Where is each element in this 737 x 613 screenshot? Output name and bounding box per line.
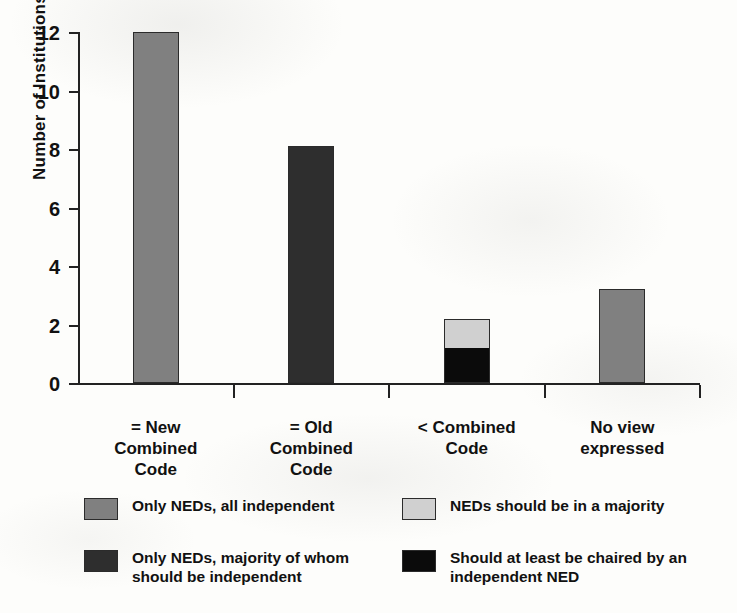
y-axis-tick: 0 [69, 383, 80, 385]
y-axis-tick: 4 [69, 266, 80, 268]
x-axis-category-label: No viewexpressed [545, 417, 701, 459]
bar-segment [134, 33, 178, 382]
category-label-line: Code [234, 459, 390, 480]
legend-item-label: Only NEDs, majority of whom should be in… [132, 549, 384, 587]
category-label-line: = New [78, 417, 234, 438]
category-label-line: Combined [78, 438, 234, 459]
chart-legend: Only NEDs, all independentNEDs should be… [84, 497, 724, 597]
legend-swatch-icon [84, 550, 118, 572]
legend-item-label: Should at least be chaired by an indepen… [450, 549, 722, 587]
legend-item[interactable]: Should at least be chaired by an indepen… [402, 549, 722, 597]
category-label-line: Combined [234, 438, 390, 459]
y-axis-tick-label: 2 [49, 314, 60, 337]
legend-item-label: NEDs should be in a majority [450, 497, 664, 516]
x-axis-category-label: < CombinedCode [389, 417, 545, 459]
legend-swatch-icon [402, 550, 436, 572]
y-axis-tick: 8 [69, 149, 80, 151]
y-axis-tick-label: 12 [38, 22, 60, 45]
y-axis-tick-label: 10 [38, 80, 60, 103]
bar-chart: Number of Institutions 121086420 = NewCo… [0, 0, 737, 613]
legend-swatch-icon [402, 498, 436, 520]
legend-item[interactable]: Only NEDs, all independent [84, 497, 384, 545]
y-axis-tick-label: 4 [49, 256, 60, 279]
y-axis-tick-label: 0 [49, 373, 60, 396]
bar-segment [445, 320, 489, 348]
legend-item-label: Only NEDs, all independent [132, 497, 334, 516]
legend-item[interactable]: Only NEDs, majority of whom should be in… [84, 549, 384, 597]
category-label-line: Code [389, 438, 545, 459]
bar [288, 146, 334, 383]
plot-area: 121086420 [78, 26, 700, 385]
x-axis-category-label: = NewCombinedCode [78, 417, 234, 480]
category-label-line: expressed [545, 438, 701, 459]
bar [599, 289, 645, 383]
x-axis-separator [699, 385, 701, 398]
category-label-line: = Old [234, 417, 390, 438]
category-label-line: Code [78, 459, 234, 480]
bar-segment [445, 348, 489, 382]
bar-segment [289, 147, 333, 382]
x-axis-separator [233, 385, 235, 398]
category-label-line: No view [545, 417, 701, 438]
y-axis-tick-label: 8 [49, 139, 60, 162]
bar [444, 319, 490, 383]
y-axis-tick: 2 [69, 325, 80, 327]
y-axis-tick: 12 [69, 32, 80, 34]
legend-swatch-icon [84, 498, 118, 520]
x-axis-separator [544, 385, 546, 398]
y-axis-tick: 10 [69, 91, 80, 93]
x-axis-separator [388, 385, 390, 398]
bar-segment [600, 290, 644, 382]
y-axis-tick-label: 6 [49, 197, 60, 220]
x-axis-category-label: = OldCombinedCode [234, 417, 390, 480]
category-label-line: < Combined [389, 417, 545, 438]
y-axis-tick: 6 [69, 208, 80, 210]
legend-item[interactable]: NEDs should be in a majority [402, 497, 722, 545]
bar [133, 32, 179, 383]
